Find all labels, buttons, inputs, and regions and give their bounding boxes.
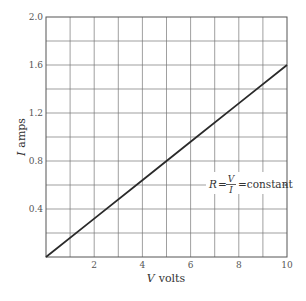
x-tick-label: 4 bbox=[140, 260, 146, 270]
y-tick-label: 0.4 bbox=[29, 204, 44, 214]
annotation-equals: = bbox=[218, 178, 227, 190]
x-axis-var: V bbox=[147, 272, 156, 285]
x-axis-label: Vvolts bbox=[147, 272, 186, 285]
grid bbox=[46, 17, 287, 257]
y-tick-label: 1.6 bbox=[29, 60, 44, 70]
annotation-rhs: =constant bbox=[238, 178, 293, 190]
annotation-lhs: R bbox=[208, 178, 217, 190]
annotation-denominator: I bbox=[228, 185, 233, 195]
y-tick-label: 1.2 bbox=[29, 108, 43, 118]
y-tick-label: 0.8 bbox=[29, 156, 44, 166]
x-tick-label: 8 bbox=[236, 260, 242, 270]
y-axis-var: I bbox=[15, 151, 28, 157]
chart-svg: 246810 0.40.81.21.62.0 Vvolts Iamps R = … bbox=[0, 0, 306, 301]
x-axis-ticks: 246810 bbox=[91, 260, 293, 270]
y-tick-label: 2.0 bbox=[29, 12, 44, 22]
x-tick-label: 6 bbox=[188, 260, 194, 270]
x-tick-label: 2 bbox=[91, 260, 97, 270]
x-axis-unit: volts bbox=[158, 272, 186, 285]
y-axis-label: Iamps bbox=[15, 118, 28, 157]
resistance-annotation: R = V I =constant bbox=[206, 172, 293, 195]
y-axis-unit: amps bbox=[15, 118, 28, 148]
y-axis-ticks: 0.40.81.21.62.0 bbox=[29, 12, 44, 214]
x-tick-label: 10 bbox=[281, 260, 293, 270]
